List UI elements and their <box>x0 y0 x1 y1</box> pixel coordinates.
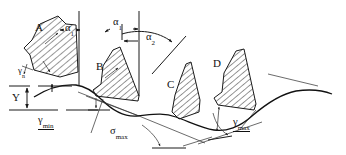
alpha2-subscript: 2 <box>152 39 156 47</box>
label-shape-d: D <box>213 58 221 69</box>
technical-diagram: A B C D α1 α1 α2 γn Y γmin σmax γmax <box>0 0 346 155</box>
label-shape-a: A <box>35 22 43 33</box>
sigma-max-leader <box>139 116 205 148</box>
gamma-n-subscript: n <box>22 73 25 79</box>
upper-right-inclined-line <box>268 74 318 86</box>
label-alpha1-left: α1 <box>65 23 74 36</box>
gamma-max-symbol: γ <box>233 116 238 127</box>
alpha1-left-symbol: α <box>65 22 71 33</box>
label-y-dimension: Y <box>12 92 20 103</box>
label-sigma-max: σmax <box>110 126 128 139</box>
lower-left-inclined-line <box>183 137 212 146</box>
y-dimension-arrow <box>27 84 52 108</box>
profile-shape-c <box>172 62 200 119</box>
alpha2-symbol: α <box>146 31 152 42</box>
horizontal-datum-lines <box>9 86 98 110</box>
label-alpha1-right: α1 <box>113 17 122 30</box>
profile-shape-b <box>93 47 139 101</box>
label-shape-c: C <box>167 79 174 90</box>
sigma-max-subscript: max <box>116 133 128 141</box>
gamma-min-subscript: min <box>43 122 54 130</box>
label-gamma-n: γn <box>18 66 25 77</box>
alpha1-left-subscript: 1 <box>71 30 75 38</box>
label-gamma-min: γmin <box>38 115 54 130</box>
gamma-max-subscript: max <box>238 124 250 132</box>
sigma-max-symbol: σ <box>110 125 116 136</box>
gamma-min-symbol: γ <box>38 114 43 125</box>
alpha1-right-symbol: α <box>113 16 119 27</box>
label-gamma-max: γmax <box>233 117 250 132</box>
label-shape-b: B <box>96 61 103 72</box>
alpha1-right-subscript: 1 <box>119 24 123 32</box>
label-alpha2: α2 <box>146 32 155 45</box>
